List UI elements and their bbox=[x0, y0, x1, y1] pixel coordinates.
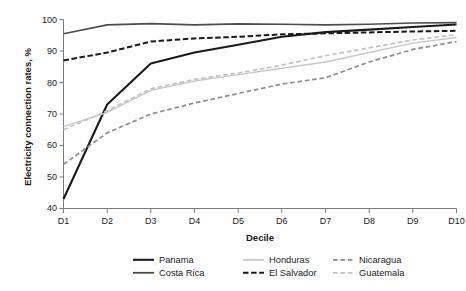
series-layer bbox=[64, 23, 457, 199]
legend-label-honduras: Honduras bbox=[269, 255, 310, 265]
x-tick-label: D5 bbox=[232, 216, 244, 226]
legend-label-el-salvador: El Salvador bbox=[269, 268, 317, 278]
x-tick-label: D3 bbox=[145, 216, 157, 226]
series-line-honduras bbox=[64, 37, 457, 126]
x-tick-label: D10 bbox=[448, 216, 465, 226]
x-tick-label: D1 bbox=[58, 216, 70, 226]
legend-item-honduras[interactable]: Honduras bbox=[243, 255, 310, 265]
legend-label-nicaragua: Nicaragua bbox=[359, 255, 402, 265]
legend-item-nicaragua[interactable]: Nicaragua bbox=[333, 255, 402, 265]
x-tick-label: D8 bbox=[363, 216, 375, 226]
y-tick-label: 100 bbox=[42, 15, 57, 25]
legend-item-el-salvador[interactable]: El Salvador bbox=[243, 268, 317, 278]
y-tick-label: 60 bbox=[47, 140, 57, 150]
x-tick-labels: D1 D2 D3 D4 D5 D6 D7 D8 D9 D10 bbox=[58, 216, 465, 226]
legend-label-panama: Panama bbox=[159, 255, 194, 265]
x-tick-label: D7 bbox=[320, 216, 332, 226]
y-tick-label: 70 bbox=[47, 109, 57, 119]
y-axis-title: Electricity connection rates, % bbox=[22, 48, 33, 186]
series-line-nicaragua bbox=[64, 42, 457, 165]
legend-label-guatemala: Guatemala bbox=[359, 268, 405, 278]
y-tick-label: 40 bbox=[47, 203, 57, 213]
legend-item-guatemala[interactable]: Guatemala bbox=[333, 268, 405, 278]
chart-canvas: Electricity connection rates, % 100 90 8… bbox=[0, 0, 466, 291]
x-tick-label: D4 bbox=[189, 216, 201, 226]
x-tick-marks bbox=[64, 209, 457, 214]
chart-legend: PanamaHondurasNicaraguaCosta RicaEl Salv… bbox=[133, 255, 405, 278]
legend-item-costa-rica[interactable]: Costa Rica bbox=[133, 268, 205, 278]
series-line-el-salvador bbox=[64, 31, 457, 61]
x-tick-label: D6 bbox=[276, 216, 288, 226]
x-axis-title: Decile bbox=[246, 232, 274, 243]
legend-item-panama[interactable]: Panama bbox=[133, 255, 194, 265]
series-line-panama bbox=[64, 25, 457, 200]
y-tick-label: 50 bbox=[47, 172, 57, 182]
legend-label-costa-rica: Costa Rica bbox=[159, 268, 205, 278]
y-tick-label: 80 bbox=[47, 78, 57, 88]
electricity-connection-rates-chart: Electricity connection rates, % 100 90 8… bbox=[0, 0, 466, 291]
y-tick-label: 90 bbox=[47, 46, 57, 56]
x-tick-label: D9 bbox=[407, 216, 419, 226]
x-tick-label: D2 bbox=[101, 216, 113, 226]
y-tick-labels: 100 90 80 70 60 50 40 bbox=[42, 15, 57, 213]
y-tick-marks bbox=[60, 20, 64, 209]
